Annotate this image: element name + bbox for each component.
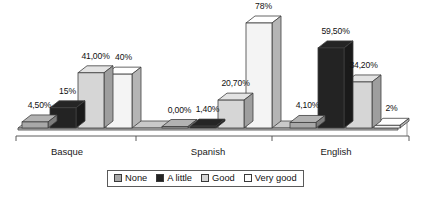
chart-legend: NoneA littleGoodVery good (107, 170, 304, 187)
legend-label: None (125, 173, 147, 183)
value-label-english-good: 34,20% (349, 60, 377, 70)
plot-area (0, 0, 424, 145)
category-label-english: English (320, 146, 351, 157)
value-label-spanish-good: 20,70% (221, 78, 249, 88)
legend-label: Good (212, 173, 235, 183)
legend-item-good[interactable]: Good (201, 173, 235, 183)
legend-item-none[interactable]: None (114, 173, 147, 183)
category-label-spanish: Spanish (191, 146, 225, 157)
category-label-basque: Basque (51, 146, 83, 157)
legend-swatch-icon (114, 174, 122, 182)
chart-canvas (0, 0, 424, 145)
value-label-basque-none: 4,50% (28, 100, 52, 110)
value-label-english-a-little: 59,50% (321, 26, 349, 36)
category-axis: BasqueSpanishEnglish (0, 142, 424, 162)
legend-swatch-icon (244, 174, 252, 182)
bar-basque-a-little (50, 101, 85, 128)
legend-swatch-icon (156, 174, 164, 182)
legend-item-very-good[interactable]: Very good (244, 173, 297, 183)
value-label-basque-very-good: 40% (115, 52, 132, 62)
value-label-spanish-a-little: 1,40% (196, 104, 220, 114)
value-label-basque-good: 41,00% (81, 51, 109, 61)
value-label-spanish-very-good: 78% (255, 1, 272, 11)
bar-english-a-little (318, 41, 353, 128)
value-label-english-none: 4,10% (296, 100, 320, 110)
legend-label: A little (167, 173, 192, 183)
value-label-english-very-good: 2% (385, 103, 397, 113)
legend-swatch-icon (201, 174, 209, 182)
bar-chart: 4,50%15%41,00%40%0,00%1,40%20,70%78%4,10… (0, 0, 424, 198)
value-label-basque-a-little: 15% (59, 86, 76, 96)
value-label-spanish-none: 0,00% (168, 105, 192, 115)
legend-label: Very good (255, 173, 297, 183)
legend-item-a-little[interactable]: A little (156, 173, 192, 183)
